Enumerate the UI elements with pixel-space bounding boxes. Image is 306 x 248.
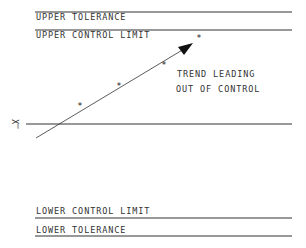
centre-line-symbol: X̿ [10,119,19,130]
upper-control-limit-label: UPPER CONTROL LIMIT [36,31,150,40]
trend-arrowhead-icon [178,43,193,55]
data-point: * [116,81,121,91]
data-point: * [196,33,201,43]
lower-control-limit-label: LOWER CONTROL LIMIT [36,207,150,216]
upper-tolerance-label: UPPER TOLERANCE [36,13,126,22]
data-point: * [161,60,166,70]
annotation-line-2: OUT OF CONTROL [176,85,260,94]
annotation-line-1: TREND LEADING [177,70,255,79]
data-point: * [77,101,82,111]
lower-tolerance-label: LOWER TOLERANCE [36,226,126,235]
